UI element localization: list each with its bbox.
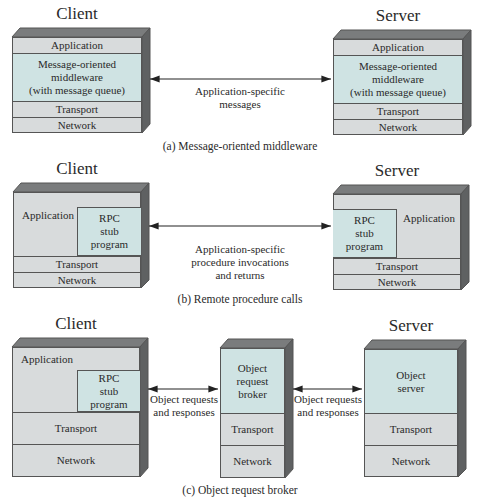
rpc-stub-program: RPC stub program — [333, 209, 397, 258]
server-stack-c: Object server Transport Network — [364, 349, 458, 477]
arrow-label-c-right: Object requests and responses — [290, 393, 366, 419]
caption-c: (c) Object request broker — [90, 484, 390, 496]
layer-network: Network — [13, 117, 141, 132]
client-stack-b: Application RPC stub program Transport N… — [13, 192, 141, 288]
server-stack-b: RPC stub program Application Transport N… — [333, 194, 461, 290]
caption-b: (b) Remote procedure calls — [90, 293, 390, 305]
layer-transport: Transport — [13, 101, 141, 117]
client-stack-c: Application RPC stub program Transport N… — [12, 347, 140, 477]
layer-transport: Transport — [334, 258, 460, 274]
layer-mom: Message-oriented middleware (with messag… — [334, 55, 462, 103]
layer-transport: Transport — [14, 256, 140, 272]
server-heading-a: Server — [333, 6, 463, 26]
layer-orb: Object request broker — [221, 349, 284, 413]
layer-network: Network — [334, 119, 462, 134]
layer-application: Application — [398, 212, 460, 225]
layer-network: Network — [14, 272, 140, 287]
layer-network: Network — [13, 444, 139, 476]
server-heading-c: Server — [364, 316, 458, 336]
layer-application: Application — [334, 40, 462, 55]
server-heading-b: Server — [333, 161, 461, 181]
client-heading-c: Client — [12, 314, 140, 334]
arrow-label-c-left: Object requests and responses — [146, 393, 222, 419]
layer-network: Network — [221, 445, 284, 477]
arrow-label-b: Application-specific procedure invocatio… — [165, 243, 315, 282]
layer-network: Network — [334, 274, 460, 289]
layer-application: Application — [17, 353, 77, 366]
rpc-stub-program: RPC stub program — [77, 207, 141, 256]
layer-application: Application — [13, 38, 141, 53]
client-heading-a: Client — [12, 4, 142, 24]
layer-transport: Transport — [365, 413, 457, 445]
arrow-label-a: Application-specific messages — [170, 85, 310, 111]
server-stack-a: Application Message-oriented middleware … — [333, 39, 463, 135]
layer-transport: Transport — [221, 413, 284, 445]
layer-object-server: Object server — [365, 350, 457, 413]
layer-transport: Transport — [334, 103, 462, 119]
caption-a: (a) Message-oriented middleware — [90, 140, 390, 152]
broker-stack-c: Object request broker Transport Network — [220, 348, 285, 478]
rpc-stub-program: RPC stub program — [77, 370, 140, 412]
layer-network: Network — [365, 445, 457, 476]
client-stack-a: Application Message-oriented middleware … — [12, 37, 142, 133]
layer-application: Application — [18, 209, 78, 222]
layer-transport: Transport — [13, 412, 139, 444]
layer-mom: Message-oriented middleware (with messag… — [13, 53, 141, 101]
client-heading-b: Client — [13, 159, 141, 179]
